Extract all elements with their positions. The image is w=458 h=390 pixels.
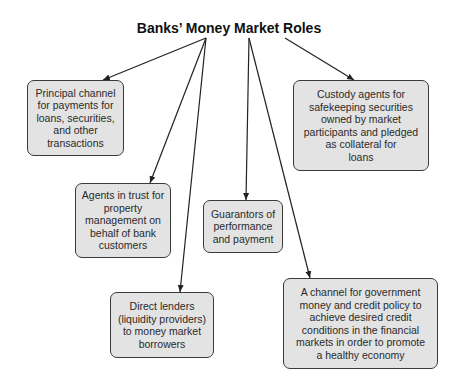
arrow-to-lenders (180, 38, 206, 292)
node-guarantors: Guarantors of performance and payment (203, 200, 283, 253)
node-lenders: Direct lenders (liquidity providers) to … (110, 292, 214, 358)
node-trust: Agents in trust for property management … (75, 183, 171, 258)
arrow-to-guarantors (246, 38, 249, 200)
node-custody: Custody agents for safekeeping securitie… (293, 80, 429, 171)
node-payments: Principal channel for payments for loans… (27, 80, 124, 156)
arrow-to-trust (150, 38, 206, 183)
arrow-to-custody (285, 38, 354, 80)
arrow-to-payments (103, 38, 206, 80)
node-policy: A channel for government money and credi… (283, 278, 438, 369)
